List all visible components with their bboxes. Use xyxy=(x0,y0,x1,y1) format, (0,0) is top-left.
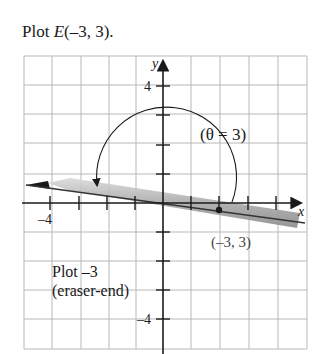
plotted-point xyxy=(216,207,222,213)
y-tick-neg4: –4 xyxy=(137,313,151,327)
x-tick-neg4: –4 xyxy=(38,213,52,227)
polar-graph xyxy=(0,0,328,354)
x-axis-label: x xyxy=(298,205,304,219)
y-tick-4: 4 xyxy=(144,80,151,94)
instruction-note: Plot –3 (eraser-end) xyxy=(52,262,129,300)
y-axis-label: y xyxy=(152,57,158,71)
note-line-1: Plot –3 xyxy=(52,262,129,281)
point-label: (–3, 3) xyxy=(211,234,251,251)
note-line-2: (eraser-end) xyxy=(52,281,129,300)
theta-label: (θ = 3) xyxy=(200,125,246,145)
